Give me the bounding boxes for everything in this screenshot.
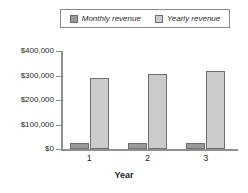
y-tick-mark — [56, 76, 61, 77]
y-tick-mark — [56, 100, 61, 101]
y-axis-tick-labels: $400,000 $300,000 $200,000 $100,000 $0 — [0, 0, 54, 193]
y-tick-label: $300,000 — [21, 72, 54, 80]
x-tick-label: 3 — [186, 154, 226, 163]
bar-yearly-revenue-year-1 — [90, 78, 109, 149]
y-tick-mark — [56, 149, 61, 150]
bar-yearly-revenue-year-3 — [206, 71, 225, 149]
plot-area: $400,000 $300,000 $200,000 $100,000 $0 1… — [0, 0, 248, 193]
bar-monthly-revenue-year-3 — [186, 143, 205, 149]
y-tick-label: $100,000 — [21, 121, 54, 129]
bar-chart: Monthly revenue Yearly revenue $400,000 … — [0, 0, 248, 193]
y-tick-mark — [56, 51, 61, 52]
y-tick-mark — [56, 125, 61, 126]
bar-monthly-revenue-year-1 — [70, 143, 89, 149]
y-tick-label: $400,000 — [21, 47, 54, 55]
y-tick-label: $200,000 — [21, 96, 54, 104]
x-axis-line — [61, 149, 238, 151]
x-tick-label: 2 — [128, 154, 168, 163]
x-axis-title: Year — [0, 171, 248, 180]
bars-container — [63, 51, 238, 149]
y-tick-label: $0 — [45, 145, 54, 153]
bar-monthly-revenue-year-2 — [128, 143, 147, 149]
bar-yearly-revenue-year-2 — [148, 74, 167, 149]
x-tick-label: 1 — [69, 154, 109, 163]
